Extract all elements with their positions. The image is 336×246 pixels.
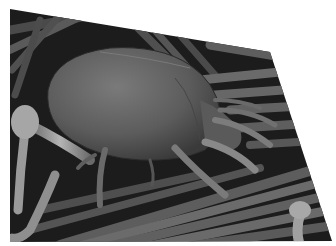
- photo-content: [0, 0, 336, 246]
- mite-micrograph-image: dust mite on fibers (scanning electron m…: [0, 0, 336, 246]
